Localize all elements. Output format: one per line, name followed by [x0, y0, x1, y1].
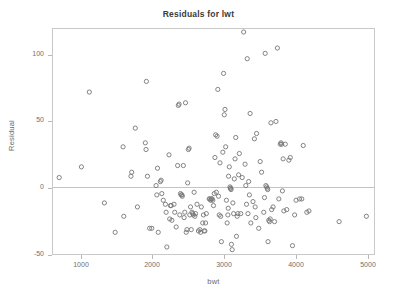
x-tick-mark: [368, 255, 369, 259]
y-tick-label: -50: [10, 250, 44, 257]
y-tick-mark: [48, 121, 52, 122]
y-tick-label: 0: [10, 183, 44, 190]
plot-area-frame: [52, 28, 375, 255]
y-tick-label: 50: [10, 116, 44, 123]
x-tick-label: 3000: [204, 261, 244, 268]
y-tick-mark: [48, 188, 52, 189]
y-tick-mark: [48, 55, 52, 56]
y-tick-label: 100: [10, 50, 44, 57]
x-tick-label: 1000: [61, 261, 101, 268]
x-axis-label: bwt: [52, 277, 375, 286]
y-tick-mark: [48, 255, 52, 256]
x-tick-label: 2000: [132, 261, 172, 268]
x-tick-mark: [224, 255, 225, 259]
x-tick-mark: [296, 255, 297, 259]
chart-title: Residuals for lwt: [0, 9, 397, 19]
y-axis-label: Residual: [7, 106, 16, 166]
zero-reference-line: [53, 187, 375, 188]
x-tick-label: 5000: [348, 261, 388, 268]
x-tick-label: 4000: [276, 261, 316, 268]
x-tick-mark: [152, 255, 153, 259]
x-tick-mark: [81, 255, 82, 259]
residual-scatter-chart: Residuals for lwt Residual -50050100 100…: [0, 0, 397, 298]
